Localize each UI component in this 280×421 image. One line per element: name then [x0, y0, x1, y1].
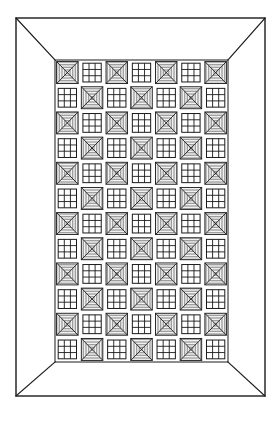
nine-pane-tile	[58, 290, 76, 309]
nine-pane-tile	[206, 88, 224, 107]
x-cross-tile	[205, 263, 227, 285]
nine-pane-tile	[132, 114, 150, 133]
nine-pane-tile-border	[58, 189, 76, 208]
x-cross-tile	[81, 187, 103, 209]
nine-pane-tile	[206, 290, 224, 309]
x-cross-tile	[180, 87, 202, 109]
x-cross-tile	[106, 162, 128, 184]
pattern-figure	[0, 0, 280, 421]
figure-root	[0, 0, 280, 421]
nine-pane-tile-border	[157, 340, 175, 359]
x-cross-tile	[81, 137, 103, 159]
x-cross-tile	[131, 288, 153, 310]
x-cross-tile	[205, 62, 227, 84]
x-cross-tile	[155, 62, 177, 84]
x-cross-tile	[57, 213, 79, 235]
nine-pane-tile-border	[157, 189, 175, 208]
nine-pane-tile-border	[132, 164, 150, 183]
nine-pane-tile	[206, 189, 224, 208]
nine-pane-tile	[206, 239, 224, 258]
nine-pane-tile	[157, 139, 175, 158]
x-cross-tile	[131, 187, 153, 209]
x-cross-tile	[205, 213, 227, 235]
nine-pane-tile-border	[206, 340, 224, 359]
nine-pane-tile-border	[83, 63, 101, 82]
nine-pane-tile-border	[58, 88, 76, 107]
nine-pane-tile	[108, 139, 126, 158]
x-cross-tile	[205, 313, 227, 335]
nine-pane-tile-border	[132, 214, 150, 233]
nine-pane-tile-border	[132, 63, 150, 82]
nine-pane-tile	[83, 214, 101, 233]
nine-pane-tile	[132, 265, 150, 284]
nine-pane-tile	[58, 88, 76, 107]
nine-pane-tile-border	[182, 265, 200, 284]
nine-pane-tile	[108, 88, 126, 107]
nine-pane-tile-border	[182, 63, 200, 82]
nine-pane-tile-border	[83, 265, 101, 284]
nine-pane-tile	[157, 340, 175, 359]
x-cross-tile	[180, 187, 202, 209]
nine-pane-tile-border	[206, 239, 224, 258]
nine-pane-tile-border	[182, 164, 200, 183]
x-cross-tile	[57, 162, 79, 184]
nine-pane-tile-border	[182, 315, 200, 334]
x-cross-tile	[57, 263, 79, 285]
nine-pane-tile	[83, 63, 101, 82]
nine-pane-tile-border	[58, 340, 76, 359]
nine-pane-tile-border	[132, 114, 150, 133]
nine-pane-tile	[132, 164, 150, 183]
x-cross-tile	[131, 137, 153, 159]
nine-pane-tile	[108, 290, 126, 309]
x-cross-tile	[81, 338, 103, 360]
x-cross-tile	[180, 338, 202, 360]
x-cross-tile	[180, 288, 202, 310]
nine-pane-tile	[58, 239, 76, 258]
x-cross-tile	[131, 238, 153, 260]
nine-pane-tile	[132, 214, 150, 233]
nine-pane-tile	[157, 290, 175, 309]
x-cross-tile	[155, 112, 177, 134]
x-cross-tile	[155, 313, 177, 335]
x-cross-tile	[57, 112, 79, 134]
x-cross-tile	[155, 213, 177, 235]
nine-pane-tile-border	[157, 239, 175, 258]
x-cross-tile	[106, 263, 128, 285]
x-cross-tile	[57, 62, 79, 84]
x-cross-tile	[205, 162, 227, 184]
nine-pane-tile	[83, 114, 101, 133]
nine-pane-tile-border	[83, 214, 101, 233]
nine-pane-tile	[157, 88, 175, 107]
x-cross-tile	[155, 263, 177, 285]
nine-pane-tile	[182, 315, 200, 334]
x-cross-tile	[155, 162, 177, 184]
nine-pane-tile-border	[108, 239, 126, 258]
nine-pane-tile-border	[108, 290, 126, 309]
nine-pane-tile	[182, 265, 200, 284]
nine-pane-tile	[182, 114, 200, 133]
nine-pane-tile-border	[206, 189, 224, 208]
x-cross-tile	[57, 313, 79, 335]
x-cross-tile	[81, 288, 103, 310]
nine-pane-tile-border	[132, 315, 150, 334]
nine-pane-tile-border	[206, 290, 224, 309]
nine-pane-tile	[83, 164, 101, 183]
nine-pane-tile	[108, 239, 126, 258]
nine-pane-tile-border	[206, 88, 224, 107]
x-cross-tile	[180, 238, 202, 260]
nine-pane-tile-border	[58, 239, 76, 258]
nine-pane-tile-border	[58, 290, 76, 309]
x-cross-tile	[81, 87, 103, 109]
nine-pane-tile-border	[182, 114, 200, 133]
nine-pane-tile-border	[157, 290, 175, 309]
nine-pane-tile-border	[83, 114, 101, 133]
nine-pane-tile	[83, 315, 101, 334]
nine-pane-tile	[157, 239, 175, 258]
nine-pane-tile	[182, 214, 200, 233]
x-cross-tile	[180, 137, 202, 159]
nine-pane-tile	[58, 139, 76, 158]
nine-pane-tile-border	[206, 139, 224, 158]
nine-pane-tile	[108, 189, 126, 208]
x-cross-tile	[106, 62, 128, 84]
nine-pane-tile	[206, 139, 224, 158]
